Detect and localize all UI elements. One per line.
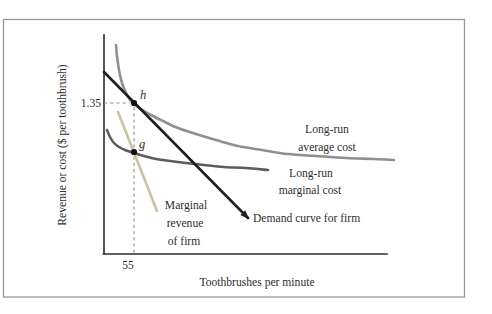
demand-label: Demand curve for firm xyxy=(253,212,360,225)
point-h-dot xyxy=(131,100,137,106)
lrac-label-line1: Long-run xyxy=(305,123,349,136)
x-axis-title: Toothbrushes per minute xyxy=(199,276,314,289)
mr-label-line3: of firm xyxy=(168,235,201,248)
figure-frame xyxy=(4,20,465,298)
figure-canvas: 1.35 55 h g Long-run average cost Long-r… xyxy=(0,0,492,314)
lrac-label-line2: average cost xyxy=(298,141,356,154)
figure: 1.35 55 h g Long-run average cost Long-r… xyxy=(0,0,492,314)
lrmc-label-line2: marginal cost xyxy=(279,184,342,197)
point-h-label: h xyxy=(140,88,146,102)
mr-label-line2: revenue xyxy=(167,217,204,230)
point-g-label: g xyxy=(139,137,145,151)
point-g-dot xyxy=(131,149,137,155)
lrmc-label-line1: Long-run xyxy=(289,167,333,180)
y-axis-title: Revenue or cost ($ per toothbrush) xyxy=(56,64,69,225)
y-tick-1-35: 1.35 xyxy=(81,97,101,110)
mr-label-line1: Marginal xyxy=(165,199,207,212)
x-tick-55: 55 xyxy=(122,259,134,272)
